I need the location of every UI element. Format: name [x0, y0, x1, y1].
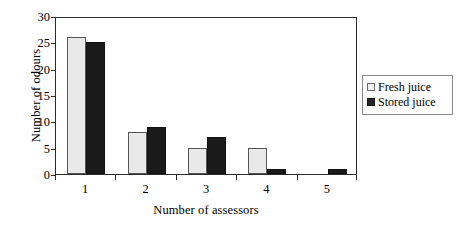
bar [128, 132, 147, 174]
x-axis-tick-labels: 12345 [55, 182, 357, 200]
y-axis-tick-label: 10 [28, 116, 50, 129]
x-axis-tick-mark [236, 175, 237, 180]
bar [328, 169, 347, 174]
legend-item-label: Fresh juice [378, 80, 431, 94]
x-axis-tick-marks [55, 175, 357, 181]
bar [147, 127, 166, 174]
bar-group [188, 18, 226, 174]
x-axis-tick-label: 4 [246, 182, 286, 197]
bar [86, 42, 105, 174]
x-axis-tick-mark [176, 175, 177, 180]
legend-item-label: Stored juice [378, 95, 436, 109]
y-axis-tick-label: 25 [28, 37, 50, 50]
x-axis-title: Number of assessors [55, 203, 357, 218]
x-axis-tick-label: 2 [126, 182, 166, 197]
bar [207, 137, 226, 174]
legend-item: Stored juice [367, 95, 449, 109]
y-axis-tick-labels: 051015202530 [26, 0, 50, 232]
x-axis-tick-mark [55, 175, 56, 180]
bar [267, 169, 286, 174]
x-axis-tick-mark [115, 175, 116, 180]
plot-frame [55, 17, 357, 175]
bar-group [309, 18, 347, 174]
legend-item: Fresh juice [367, 80, 449, 94]
x-axis-tick-label: 5 [307, 182, 347, 197]
plot-area [56, 18, 356, 174]
y-axis-tick-label: 30 [28, 11, 50, 24]
x-axis-tick-label: 3 [186, 182, 226, 197]
stored-swatch-icon [367, 98, 375, 106]
bar [188, 148, 207, 174]
fresh-swatch-icon [367, 83, 375, 91]
y-axis-tick-label: 5 [28, 142, 50, 155]
y-axis-tick-label: 20 [28, 63, 50, 76]
legend: Fresh juiceStored juice [362, 75, 453, 115]
y-axis-tick-label: 0 [28, 169, 50, 182]
x-axis-tick-label: 1 [65, 182, 105, 197]
bar-group [128, 18, 166, 174]
x-axis-tick-mark [356, 175, 357, 180]
bar-chart: Number of odours 051015202530 12345 Numb… [0, 0, 465, 232]
bar [67, 37, 86, 174]
x-axis-tick-mark [297, 175, 298, 180]
y-axis-tick-label: 15 [28, 90, 50, 103]
bar-group [67, 18, 105, 174]
bar-group [248, 18, 286, 174]
bar [248, 148, 267, 174]
